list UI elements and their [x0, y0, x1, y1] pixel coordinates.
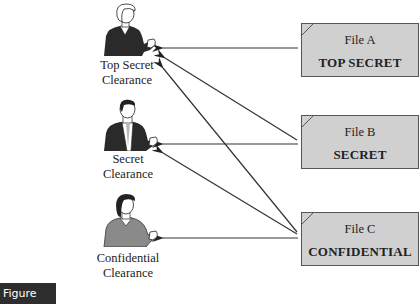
file-a-level: TOP SECRET [302, 55, 418, 71]
top-secret-user [98, 2, 158, 56]
file-a-name: File A [302, 33, 418, 48]
top-secret-clearance-label: Top Secret Clearance [72, 58, 182, 88]
file-b-level: SECRET [302, 147, 418, 163]
secret-clearance-label: Secret Clearance [73, 152, 183, 182]
file-c-name: File C [302, 222, 418, 237]
file-b: File B SECRET [301, 115, 419, 169]
arrow-filec-topsecret [163, 68, 297, 232]
confidential-user [100, 191, 160, 247]
file-c-level: CONFIDENTIAL [302, 244, 418, 260]
file-a: File A TOP SECRET [301, 23, 419, 77]
figure-label: Figure 17.3 [0, 283, 56, 304]
confidential-clearance-label: Confidential Clearance [73, 251, 183, 281]
file-c: File C CONFIDENTIAL [301, 212, 419, 266]
man-figure-icon [100, 97, 160, 151]
arrow-filec-secret [163, 153, 297, 234]
woman-figure-icon [98, 2, 158, 56]
arrow-fileb-topsecret [165, 58, 297, 140]
woman-gray-figure-icon [100, 191, 160, 247]
file-b-name: File B [302, 125, 418, 140]
secret-user [100, 97, 160, 151]
